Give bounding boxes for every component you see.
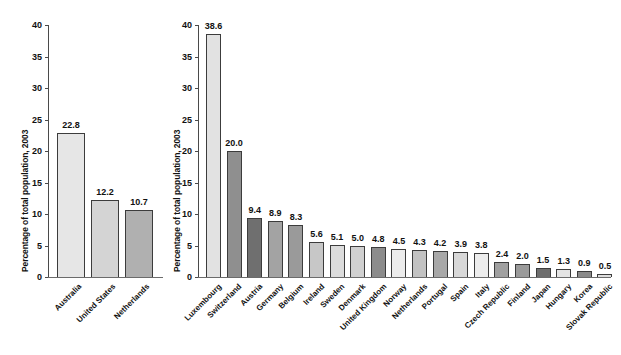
- y-tick-label: 35: [22, 53, 42, 62]
- bar-left-panel-0[interactable]: [57, 133, 85, 277]
- bar-right-panel-12[interactable]: [453, 252, 468, 277]
- y-tick-mark: [195, 214, 198, 215]
- bar-left-panel-1[interactable]: [91, 200, 119, 277]
- y-tick-mark: [195, 120, 198, 121]
- bar-value-label: 22.8: [51, 121, 91, 130]
- y-tick-label: 20: [172, 147, 192, 156]
- y-tick-label: 0: [22, 273, 42, 282]
- bar-value-label: 10.7: [119, 198, 159, 207]
- y-tick-mark: [195, 57, 198, 58]
- y-tick-label: 40: [172, 21, 192, 30]
- x-axis-baseline: [48, 277, 163, 278]
- bar-right-panel-0[interactable]: [206, 34, 221, 277]
- y-tick-label: 25: [172, 116, 192, 125]
- bar-right-panel-8[interactable]: [371, 247, 386, 277]
- bar-right-panel-2[interactable]: [247, 218, 262, 277]
- bar-value-label: 20.0: [221, 139, 248, 148]
- bar-right-panel-1[interactable]: [227, 151, 242, 277]
- y-tick-label: 0: [172, 273, 192, 282]
- bar-right-panel-18[interactable]: [577, 271, 592, 277]
- bar-right-panel-14[interactable]: [494, 262, 509, 277]
- y-tick-mark: [45, 246, 48, 247]
- category-label: Australia: [0, 282, 84, 355]
- y-tick-mark: [195, 151, 198, 152]
- y-tick-label: 20: [22, 147, 42, 156]
- y-tick-label: 40: [22, 21, 42, 30]
- bar-right-panel-17[interactable]: [556, 269, 571, 277]
- bar-left-panel-2[interactable]: [125, 210, 153, 277]
- bar-right-panel-6[interactable]: [330, 245, 345, 277]
- bar-right-panel-5[interactable]: [309, 242, 324, 277]
- y-axis-line: [198, 25, 199, 277]
- bar-right-panel-19[interactable]: [597, 274, 612, 277]
- y-tick-mark: [195, 246, 198, 247]
- y-tick-label: 30: [172, 84, 192, 93]
- bar-right-panel-9[interactable]: [391, 249, 406, 277]
- y-tick-mark: [45, 57, 48, 58]
- y-tick-mark: [45, 25, 48, 26]
- y-tick-label: 30: [22, 84, 42, 93]
- y-tick-label: 5: [172, 242, 192, 251]
- bar-value-label: 8.3: [282, 213, 309, 222]
- y-tick-label: 10: [172, 210, 192, 219]
- y-tick-label: 15: [22, 179, 42, 188]
- y-tick-label: 35: [172, 53, 192, 62]
- bar-value-label: 38.6: [200, 22, 227, 31]
- bar-right-panel-15[interactable]: [515, 264, 530, 277]
- y-tick-mark: [45, 151, 48, 152]
- bar-right-panel-3[interactable]: [268, 221, 283, 277]
- bar-right-panel-7[interactable]: [350, 246, 365, 278]
- y-axis-line: [48, 25, 49, 277]
- y-tick-mark: [195, 183, 198, 184]
- bar-right-panel-13[interactable]: [474, 253, 489, 277]
- y-tick-mark: [45, 183, 48, 184]
- y-tick-label: 25: [22, 116, 42, 125]
- y-tick-label: 5: [22, 242, 42, 251]
- bar-value-label: 12.2: [85, 188, 125, 197]
- x-axis-baseline: [198, 277, 611, 278]
- y-tick-mark: [45, 214, 48, 215]
- y-tick-label: 10: [22, 210, 42, 219]
- bar-right-panel-16[interactable]: [536, 268, 551, 277]
- bar-right-panel-11[interactable]: [433, 251, 448, 277]
- bar-value-label: 3.8: [468, 241, 495, 250]
- y-tick-mark: [45, 88, 48, 89]
- y-tick-mark: [195, 88, 198, 89]
- y-tick-mark: [195, 25, 198, 26]
- y-tick-label: 15: [172, 179, 192, 188]
- bar-right-panel-4[interactable]: [288, 225, 303, 277]
- bar-value-label: 0.5: [591, 262, 618, 271]
- y-tick-mark: [45, 120, 48, 121]
- bar-right-panel-10[interactable]: [412, 250, 427, 277]
